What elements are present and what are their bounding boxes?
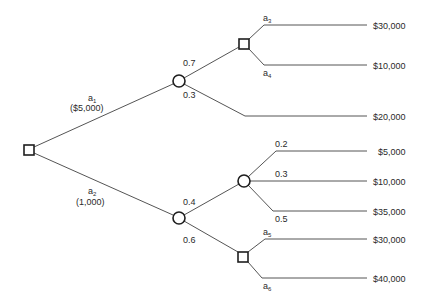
edge-a4 xyxy=(249,49,367,65)
payoff-p05: $35,000 xyxy=(373,207,406,217)
decision-tree-diagram: a1 ($5,000) a2 (1,000) 0.7 0.3 a3 a4 0.4… xyxy=(0,0,426,308)
label-a6: a6 xyxy=(263,281,272,292)
edge-a6 xyxy=(248,262,367,278)
root-decision-node xyxy=(24,145,34,155)
label-a2: a2 xyxy=(88,186,97,197)
payoff-a6: $40,000 xyxy=(373,274,406,284)
label-a3: a3 xyxy=(263,13,272,24)
label-a2-cost: (1,000) xyxy=(76,197,105,207)
edge-a3 xyxy=(249,25,367,39)
payoff-a5: $30,000 xyxy=(373,235,406,245)
edge-a1 xyxy=(34,84,173,147)
payoff-a3: $30,000 xyxy=(373,21,406,31)
payoff-p03: $10,000 xyxy=(373,177,406,187)
label-a1-cost: ($5,000) xyxy=(70,103,104,113)
prob-0.3-lower: 0.3 xyxy=(275,169,288,179)
chance-node-lower xyxy=(238,175,250,187)
label-a5: a5 xyxy=(263,227,272,238)
edge-p03-upper xyxy=(184,84,367,116)
prob-0.5: 0.5 xyxy=(275,214,288,224)
payoff-p02: $5,000 xyxy=(378,147,406,157)
decision-node-lower xyxy=(238,252,248,262)
prob-0.3-upper: 0.3 xyxy=(183,90,196,100)
prob-0.7: 0.7 xyxy=(183,58,196,68)
edge-a5 xyxy=(248,239,367,252)
label-a4: a4 xyxy=(263,68,272,79)
payoff-a4: $10,000 xyxy=(373,61,406,71)
edge-p05 xyxy=(248,185,367,211)
edge-p02 xyxy=(248,151,367,177)
chance-node-a2 xyxy=(173,212,185,224)
prob-0.2: 0.2 xyxy=(275,139,288,149)
decision-node-upper xyxy=(239,39,249,49)
prob-0.6: 0.6 xyxy=(183,235,196,245)
chance-node-a1 xyxy=(173,75,185,87)
payoff-upper-03: $20,000 xyxy=(373,112,406,122)
prob-0.4: 0.4 xyxy=(183,197,196,207)
